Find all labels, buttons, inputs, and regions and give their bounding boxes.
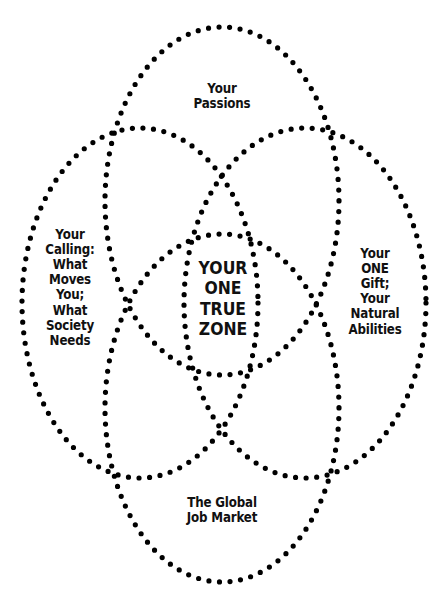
passions-label: Your Passions xyxy=(178,81,266,111)
true-zone-label: YOUR ONE TRUE ZONE xyxy=(190,258,256,340)
gift-label: Your ONE Gift; Your Natural Abilities xyxy=(338,246,412,337)
calling-label: Your Calling: What Moves You; What Socie… xyxy=(35,227,105,348)
market-label: The Global Job Market xyxy=(169,495,275,525)
